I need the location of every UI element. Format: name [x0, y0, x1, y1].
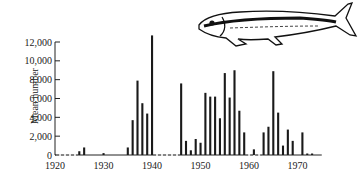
bar-1967: [282, 146, 284, 155]
bar-1953: [214, 97, 216, 155]
bars: [78, 35, 313, 155]
x-tick-label: 1950: [191, 160, 211, 171]
bar-1966: [277, 113, 279, 155]
bar-1938: [141, 103, 143, 155]
bar-1964: [267, 127, 269, 155]
bar-1935: [127, 147, 129, 155]
bar-1958: [238, 111, 240, 155]
chart-root: 02,0004,0006,0008,00010,00012,0001920193…: [0, 0, 364, 176]
bar-1965: [272, 71, 274, 155]
bar-1971: [301, 132, 303, 155]
y-tick-label: 0: [47, 150, 52, 161]
bar-1968: [287, 130, 289, 155]
bar-1955: [224, 73, 226, 155]
bar-1950: [200, 143, 202, 155]
bar-1961: [253, 149, 255, 155]
x-tick-label: 1940: [142, 160, 162, 171]
bar-1956: [229, 98, 231, 155]
y-tick-label: 12,000: [25, 37, 53, 48]
fish-illustration-icon: [199, 3, 356, 46]
x-tick-label: 1970: [288, 160, 308, 171]
bar-1925: [78, 151, 80, 155]
bar-1954: [219, 118, 221, 155]
bar-1937: [136, 81, 138, 155]
bar-1949: [195, 139, 197, 155]
x-tick-label: 1930: [94, 160, 114, 171]
bar-1963: [263, 132, 265, 155]
bar-1972: [306, 154, 308, 156]
bar-1973: [311, 154, 313, 156]
bar-1969: [292, 141, 294, 155]
y-tick-label: 10,000: [25, 55, 53, 66]
bar-1959: [243, 132, 245, 155]
y-axis-label: Mean number: [29, 67, 40, 123]
bar-1947: [185, 141, 187, 155]
bar-1952: [209, 97, 211, 155]
bar-1940: [151, 35, 153, 155]
bar-1936: [132, 120, 134, 155]
bar-1926: [83, 147, 85, 155]
bar-1957: [233, 70, 235, 155]
bar-1939: [146, 114, 148, 155]
bar-1946: [180, 83, 182, 155]
bar-chart: 02,0004,0006,0008,00010,00012,0001920193…: [0, 0, 364, 176]
bar-1951: [204, 93, 206, 155]
x-tick-label: 1920: [45, 160, 65, 171]
bar-1948: [190, 150, 192, 155]
x-tick-label: 1960: [239, 160, 259, 171]
y-tick-label: 2,000: [30, 131, 53, 142]
bar-1930: [103, 153, 105, 155]
